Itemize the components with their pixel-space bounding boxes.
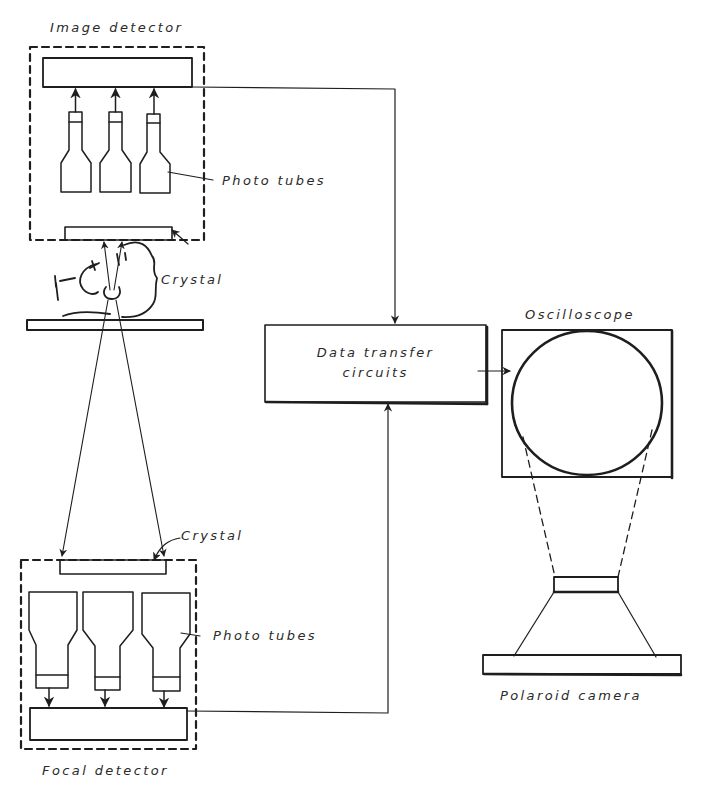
image-detector-housing: [30, 47, 204, 240]
image-detector-crystal: [65, 227, 172, 240]
photo-tube-icon: [61, 89, 91, 192]
oscilloscope-label: Oscilloscope: [525, 307, 635, 322]
photo-tubes-top-label: Photo tubes: [222, 173, 326, 188]
projection-lines: [523, 430, 652, 577]
camera-base: [483, 655, 681, 674]
photo-tube-icon: [140, 89, 170, 193]
diagram-canvas: [0, 0, 706, 790]
data-transfer-label-line1: Data transfer: [265, 343, 486, 363]
image-detector-collector-bar: [43, 58, 192, 87]
focal-detector-collector-bar: [30, 708, 187, 740]
polaroid-camera-label: Polaroid camera: [500, 688, 642, 703]
photo-tube-icon: [83, 592, 133, 706]
patient-table: [27, 320, 203, 330]
photo-tubes-bottom-label: Photo tubes: [213, 628, 317, 643]
focal-detector-label: Focal detector: [42, 763, 169, 778]
image-detector: [30, 47, 213, 240]
crystal-bottom-label: Crystal: [181, 528, 243, 543]
gamma-ray-paths: [62, 242, 164, 556]
data-transfer-label-line2: circuits: [265, 363, 486, 383]
data-transfer-label: Data transfer circuits: [265, 343, 486, 383]
photo-tube-icon: [29, 592, 77, 706]
focal-detector-crystal: [60, 560, 166, 574]
focal-detector: [21, 538, 200, 749]
focal-detector-housing: [21, 560, 196, 749]
crystal-top-label: Crystal: [161, 272, 223, 287]
photo-tube-icon: [100, 89, 131, 192]
image-detector-label: Image detector: [50, 20, 183, 35]
photo-tube-icon: [142, 593, 190, 707]
camera-lens: [554, 577, 618, 592]
oscilloscope-screen-icon: [512, 331, 662, 475]
